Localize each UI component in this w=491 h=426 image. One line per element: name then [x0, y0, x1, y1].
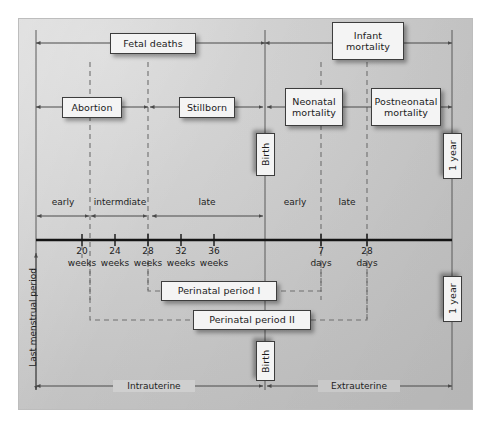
axis-tick-unit-5: days [301, 258, 341, 268]
label-early-neonatal: early [275, 197, 315, 207]
box-stillborn[interactable]: Stillborn [179, 97, 235, 118]
axis-tick-value-2: 28 [133, 246, 163, 256]
axis-tick-value-4: 36 [199, 246, 229, 256]
label-extrauterine: Extrauterine [318, 380, 400, 392]
axis-tick-value-5: 7 [306, 246, 336, 256]
box-abortion[interactable]: Abortion [62, 97, 122, 118]
label-last-menstrual-period: Last menstrual period [28, 268, 38, 367]
box-fetal-deaths[interactable]: Fetal deaths [110, 33, 196, 54]
box-neonatal-mortality[interactable]: Neonatal mortality [285, 88, 343, 126]
axis-tick-value-0: 20 [67, 246, 97, 256]
figure-root: Fetal deaths Infant mortality Abortion S… [0, 0, 491, 426]
diagram-vector-layer [0, 0, 491, 426]
axis-tick-value-1: 24 [100, 246, 130, 256]
label-late-neonatal: late [327, 197, 367, 207]
box-infant-mortality[interactable]: Infant mortality [332, 22, 404, 60]
box-birth-top[interactable]: Birth [256, 133, 275, 176]
label-intrauterine: Intrauterine [113, 380, 195, 392]
axis-tick-value-6: 28 [352, 246, 382, 256]
box-perinatal-period-2[interactable]: Perinatal period II [193, 310, 311, 330]
box-birth-bottom[interactable]: Birth [256, 341, 275, 381]
axis-tick-value-3: 32 [166, 246, 196, 256]
box-one-year-top[interactable]: 1 year [443, 133, 462, 179]
label-early-fetal: early [43, 197, 83, 207]
label-late-fetal: late [182, 197, 232, 207]
box-postneonatal-mortality[interactable]: Postneonatal mortality [371, 88, 441, 126]
box-perinatal-period-1[interactable]: Perinatal period I [161, 281, 277, 301]
label-intermediate-fetal: intermdiate [89, 197, 151, 207]
axis-tick-unit-6: days [347, 258, 387, 268]
box-one-year-bottom[interactable]: 1 year [443, 276, 462, 322]
axis-tick-unit-4: weeks [194, 258, 234, 268]
